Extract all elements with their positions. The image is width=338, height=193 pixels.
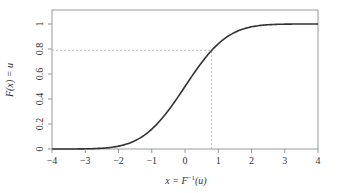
cdf-curve bbox=[52, 24, 318, 149]
plot-frame bbox=[52, 10, 318, 149]
y-tick-label: 0.2 bbox=[34, 118, 45, 131]
x-tick-label: −1 bbox=[146, 155, 157, 166]
x-axis-ticks: −4−3−2−101234 bbox=[47, 149, 321, 166]
x-axis-label: x = F−1(u) bbox=[164, 174, 207, 187]
y-tick-label: 1 bbox=[34, 22, 45, 27]
x-tick-label: −3 bbox=[80, 155, 91, 166]
y-tick-label: 0.6 bbox=[34, 68, 45, 81]
x-tick-label: 3 bbox=[282, 155, 287, 166]
y-tick-label: 0.4 bbox=[34, 93, 45, 106]
x-tick-label: 0 bbox=[183, 155, 188, 166]
cdf-chart: −4−3−2−101234 00.20.40.60.81 x = F−1(u) … bbox=[0, 0, 338, 193]
y-tick-label: 0.8 bbox=[34, 43, 45, 56]
annotation-lines bbox=[52, 50, 212, 149]
x-tick-label: 2 bbox=[249, 155, 254, 166]
x-tick-label: −2 bbox=[113, 155, 124, 166]
y-axis-label: F(x) = u bbox=[4, 63, 16, 98]
y-tick-label: 0 bbox=[34, 147, 45, 152]
x-tick-label: 1 bbox=[216, 155, 221, 166]
x-tick-label: 4 bbox=[316, 155, 321, 166]
x-tick-label: −4 bbox=[47, 155, 58, 166]
y-axis-ticks: 00.20.40.60.81 bbox=[34, 22, 52, 152]
